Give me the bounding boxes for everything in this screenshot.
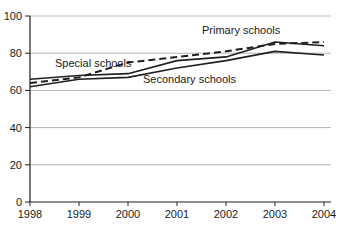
series-label-primary-schools: Primary schools (202, 24, 281, 36)
y-tick-label: 60 (10, 84, 22, 96)
x-tick-label: 2002 (214, 208, 238, 220)
x-tick-label: 1999 (67, 208, 91, 220)
x-tick-label: 2004 (312, 208, 336, 220)
series-label-special-schools: Special schools (55, 57, 132, 69)
line-chart-figure: 0204060801001998199920002001200220032004… (0, 0, 339, 225)
x-tick-label: 2003 (263, 208, 287, 220)
y-tick-label: 100 (4, 10, 22, 22)
x-tick-label: 2000 (116, 208, 140, 220)
series-label-secondary-schools: Secondary schools (143, 73, 236, 85)
x-tick-label: 2001 (165, 208, 189, 220)
y-tick-label: 0 (16, 196, 22, 208)
x-tick-label: 1998 (18, 208, 42, 220)
y-tick-label: 40 (10, 122, 22, 134)
line-chart: 0204060801001998199920002001200220032004… (0, 0, 339, 225)
y-tick-label: 20 (10, 159, 22, 171)
y-tick-label: 80 (10, 47, 22, 59)
